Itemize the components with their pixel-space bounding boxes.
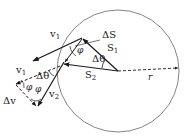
phi-label-top: φ	[77, 45, 84, 55]
s1-label: S1	[107, 42, 118, 55]
delta-theta-label-top: Δθ	[92, 53, 105, 64]
s2-label: S2	[85, 69, 96, 82]
phi-arc-right	[31, 99, 41, 101]
phi-arc-left	[21, 80, 24, 88]
v2-vector	[38, 62, 64, 106]
v1-label-top: v1	[49, 28, 60, 41]
delta-theta-label-bottom: Δθ	[36, 70, 49, 81]
delta-s-label: ΔS	[102, 29, 116, 40]
delta-theta-arc-bottom	[49, 71, 54, 76]
phi-label-right: φ	[35, 84, 42, 94]
velocity-diagram: r S1 S2 Δθ ΔS φ v1 v2 v1 Δθ Δv φ φ	[0, 0, 188, 138]
v2-label: v2	[48, 88, 59, 101]
radius-label: r	[148, 72, 153, 82]
radius-vector	[118, 68, 178, 71]
v1-label-bottom: v1	[15, 64, 26, 77]
phi-label-left: φ	[26, 82, 33, 92]
delta-v-label: Δv	[3, 95, 16, 106]
